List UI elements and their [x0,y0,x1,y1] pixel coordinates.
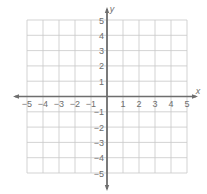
y-tick-label: −2 [94,123,104,133]
coordinate-plane: xy−5−4−3−2−11234554321−1−2−3−4−5 [0,0,207,194]
x-tick-label: −2 [70,99,80,109]
y-tick-label: −3 [94,138,104,148]
y-tick-label: −1 [94,107,104,117]
y-tick-label: 4 [99,31,104,41]
x-tick-label: 5 [184,99,189,109]
tick-labels: xy−5−4−3−2−11234554321−1−2−3−4−5 [22,4,201,179]
y-axis-label: y [109,4,115,14]
y-tick-label: −5 [94,169,104,179]
y-tick-label: 5 [99,16,104,26]
y-tick-label: 1 [99,77,104,87]
x-tick-label: 1 [120,99,125,109]
x-tick-label: −3 [54,99,64,109]
y-axis-up-arrow-icon [105,7,109,13]
x-tick-label: −4 [38,99,48,109]
y-tick-label: −4 [94,153,104,163]
x-axis-label: x [195,86,201,96]
y-tick-label: 2 [99,61,104,71]
x-axis-left-arrow-icon [13,94,19,98]
x-tick-label: −5 [22,99,32,109]
x-tick-label: 4 [168,99,173,109]
y-tick-label: 3 [99,46,104,56]
x-tick-label: 2 [136,99,141,109]
y-axis-down-arrow-icon [105,185,109,191]
x-tick-label: 3 [152,99,157,109]
